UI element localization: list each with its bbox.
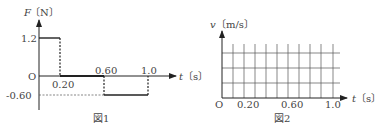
fig1-y-unit: 〔N〕 xyxy=(30,7,59,18)
fig1-ytick--0.60: -0.60 xyxy=(6,90,32,101)
fig1-xtick-1.0: 1.0 xyxy=(141,65,157,76)
fig1-xtick-0.20: 0.20 xyxy=(52,79,74,90)
diagram-canvas: F 〔N〕 1.2 O -0.60 0.20 0.60 1.0 t 〔s〕 図1 xyxy=(0,0,381,134)
fig2-xtick-1.0: 1.0 xyxy=(325,99,341,110)
fig1-xtick-0.60: 0.60 xyxy=(95,65,117,76)
fig1-ytick-1.2: 1.2 xyxy=(21,33,37,44)
fig2-xtick-0.20: 0.20 xyxy=(237,99,259,110)
fig1-caption: 図1 xyxy=(93,113,109,124)
figure-2: v 〔m/s〕 O 0.20 0.60 1.0 t 〔s〕 図2 xyxy=(210,19,381,124)
fig2-caption: 図2 xyxy=(274,113,290,124)
figure-1: F 〔N〕 1.2 O -0.60 0.20 0.60 1.0 t 〔s〕 図1 xyxy=(6,7,208,124)
fig1-x-unit: 〔s〕 xyxy=(183,71,208,82)
fig2-grid xyxy=(222,44,340,98)
fig2-origin: O xyxy=(215,99,223,110)
fig2-x-unit: 〔s〕 xyxy=(356,93,381,104)
fig2-y-unit: 〔m/s〕 xyxy=(216,19,254,30)
fig2-xtick-0.60: 0.60 xyxy=(281,99,303,110)
fig1-origin: O xyxy=(28,71,36,82)
